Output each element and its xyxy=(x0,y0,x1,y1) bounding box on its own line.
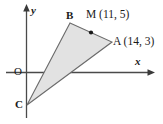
vertex-label-b: B xyxy=(66,10,73,21)
point-m-dot xyxy=(89,30,93,34)
x-axis-arrow-icon xyxy=(148,69,156,76)
point-label-m: M (11, 5) xyxy=(86,9,129,21)
y-axis-label: y xyxy=(31,5,36,16)
triangle-abc-shape xyxy=(27,23,112,105)
y-axis-arrow-icon xyxy=(23,4,30,12)
origin-label: O xyxy=(14,66,22,77)
point-label-a: A (14, 3) xyxy=(113,36,154,48)
coordinate-plane-figure: B M (11, 5) A (14, 3) C O x y xyxy=(0,0,163,124)
x-axis-label: x xyxy=(135,56,141,67)
vertex-label-c: C xyxy=(15,99,23,110)
